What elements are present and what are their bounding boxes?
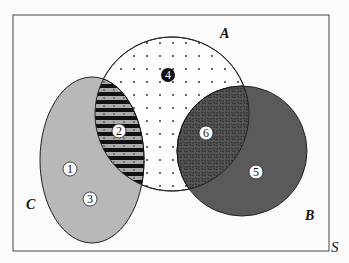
region-marker-6: 6 bbox=[199, 126, 213, 140]
universe-label: S bbox=[331, 239, 339, 255]
set-b-label: B bbox=[304, 208, 314, 223]
region-marker-3: 3 bbox=[83, 192, 97, 206]
region-marker-4: 4 bbox=[161, 68, 175, 82]
svg-text:2: 2 bbox=[116, 124, 122, 138]
region-marker-1: 1 bbox=[63, 162, 77, 176]
region-marker-2: 2 bbox=[112, 124, 126, 138]
svg-text:5: 5 bbox=[253, 165, 259, 179]
svg-text:3: 3 bbox=[87, 192, 93, 206]
set-a-label: A bbox=[219, 26, 229, 41]
svg-text:4: 4 bbox=[165, 68, 171, 82]
svg-text:1: 1 bbox=[67, 162, 73, 176]
region-marker-5: 5 bbox=[249, 165, 263, 179]
set-c-label: C bbox=[26, 197, 36, 212]
svg-text:6: 6 bbox=[203, 126, 209, 140]
venn-diagram: A B C S 1 2 3 4 5 6 bbox=[0, 0, 349, 263]
